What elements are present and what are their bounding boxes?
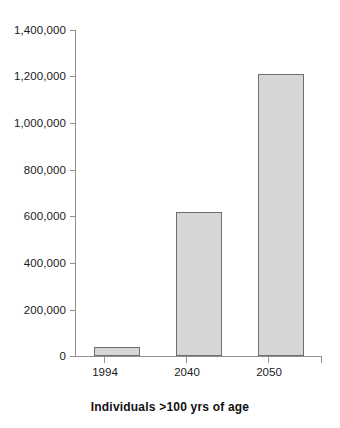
y-axis-tick-label: 800,000: [24, 165, 66, 177]
bar-2040: [176, 212, 222, 356]
x-axis-label-2040: 2040: [146, 367, 228, 379]
bar-2050: [258, 74, 304, 356]
x-axis-label-2050: 2050: [228, 367, 310, 379]
bar-1994: [94, 347, 140, 356]
y-axis-tick-label: 600,000: [24, 211, 66, 223]
y-axis-tick-label: 1,400,000: [14, 25, 66, 37]
y-axis-tick-label: 200,000: [24, 305, 66, 317]
y-axis-tick-label: 1,200,000: [14, 71, 66, 83]
y-axis-tick-label: 1,000,000: [14, 118, 66, 130]
x-axis-label-1994: 1994: [64, 367, 146, 379]
x-axis-tick: [186, 357, 187, 363]
bar-chart-figure: 1,400,000 1,200,000 1,000,000 800,000 60…: [0, 0, 340, 428]
x-axis-tick: [268, 357, 269, 363]
y-axis-tick-label: 0: [60, 351, 67, 363]
x-axis-line: [76, 356, 322, 357]
x-axis-title: Individuals >100 yrs of age: [0, 400, 340, 414]
x-axis-tick: [104, 357, 105, 363]
x-axis-tick: [321, 357, 322, 363]
plot-area: [76, 30, 322, 356]
y-axis-tick-label: 400,000: [24, 258, 66, 270]
